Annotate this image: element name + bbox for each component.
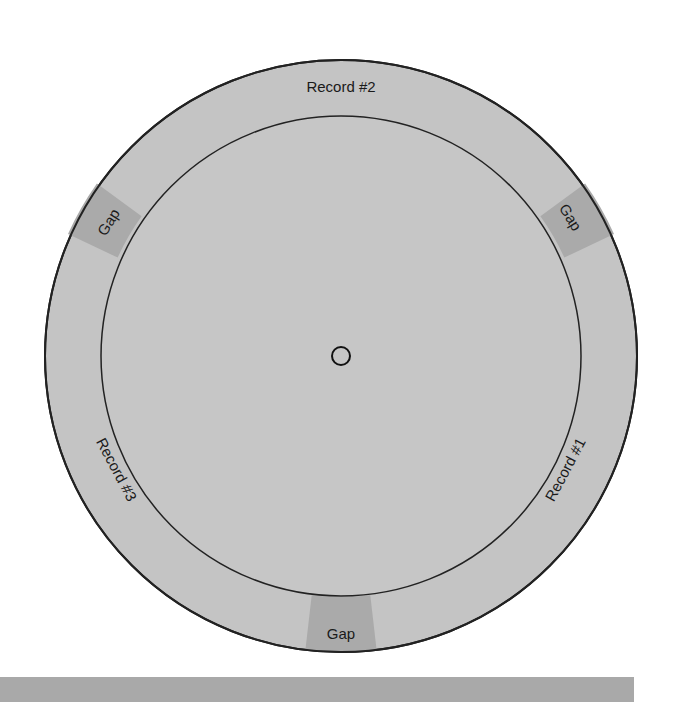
bottom-bar — [0, 677, 634, 702]
disk-diagram: Record #2 Record #3 Record #1 Gap Gap Ga… — [0, 0, 681, 702]
record-2-label: Record #2 — [306, 78, 375, 95]
inner-area — [101, 116, 581, 596]
gap-bottom-sector — [305, 595, 376, 652]
gap-bottom-label: Gap — [327, 625, 355, 642]
